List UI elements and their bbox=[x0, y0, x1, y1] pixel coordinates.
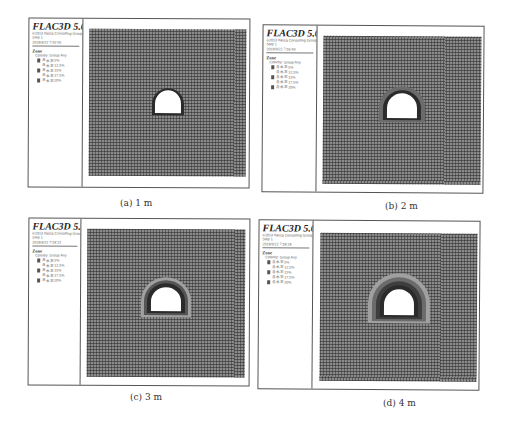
legend-item: 含水率20% bbox=[266, 85, 313, 90]
legend-title: FLAC3D 5.00 bbox=[266, 27, 313, 38]
swatch-icon bbox=[37, 79, 40, 83]
panel-b: FLAC3D 5.00 ©2013 Itasca Consulting Grou… bbox=[261, 24, 484, 194]
legend-divider bbox=[32, 46, 79, 47]
legend-timestamp: 2019/3/22 7:58:22 bbox=[32, 240, 77, 245]
legend-divider bbox=[266, 52, 313, 53]
tunnel-opening bbox=[387, 93, 417, 118]
swatch-icon bbox=[267, 275, 270, 279]
caption-c: (c) 3 m bbox=[130, 392, 162, 402]
legend-a: FLAC3D 5.00 ©2013 Itasca Consulting Grou… bbox=[29, 18, 84, 186]
mesh-plot-a bbox=[89, 29, 247, 177]
swatch-icon bbox=[271, 75, 274, 79]
legend-timestamp: 2019/3/22 7:55:56 bbox=[32, 40, 79, 45]
mesh-plot-c bbox=[87, 229, 246, 378]
swatch-icon bbox=[37, 279, 40, 283]
caption-a: (a) 1 m bbox=[120, 198, 152, 208]
swatch-icon bbox=[37, 59, 40, 63]
panel-c: FLAC3D 5.00 ©2013 Itasca Consulting Grou… bbox=[28, 217, 251, 386]
legend-d: FLAC3D 5.00 ©2013 Itasca Consulting Grou… bbox=[258, 220, 313, 388]
legend-title: FLAC3D 5.00 bbox=[32, 20, 79, 31]
mesh-plot-d bbox=[319, 233, 477, 382]
panel-a: FLAC3D 5.00 ©2013 Itasca Consulting Grou… bbox=[28, 17, 251, 188]
legend-title: FLAC3D 5.00 bbox=[262, 222, 309, 233]
swatch-icon bbox=[267, 265, 270, 269]
swatch-icon bbox=[37, 74, 40, 78]
swatch-icon bbox=[267, 260, 270, 264]
swatch-icon bbox=[271, 70, 274, 74]
swatch-icon bbox=[271, 85, 274, 89]
tunnel-opening bbox=[383, 289, 413, 315]
legend-c: FLAC3D 5.00 ©2013 Itasca Consulting Grou… bbox=[29, 218, 82, 384]
swatch-icon bbox=[267, 280, 270, 284]
legend-title: FLAC3D 5.00 bbox=[32, 220, 77, 231]
tunnel-opening bbox=[151, 287, 181, 311]
swatch-icon bbox=[37, 269, 40, 273]
swatch-icon bbox=[37, 69, 40, 73]
swatch-icon bbox=[271, 80, 274, 84]
swatch-icon bbox=[37, 264, 40, 268]
legend-b: FLAC3D 5.00 ©2013 Itasca Consulting Grou… bbox=[262, 25, 317, 191]
swatch-icon bbox=[267, 270, 270, 274]
caption-b: (b) 2 m bbox=[385, 201, 418, 211]
swatch-icon bbox=[37, 274, 40, 278]
legend-item: 含水率20% bbox=[32, 78, 79, 83]
legend-divider bbox=[262, 247, 309, 248]
legend-item: 含水率20% bbox=[32, 278, 77, 283]
legend-divider bbox=[32, 246, 77, 247]
swatch-icon bbox=[37, 64, 40, 68]
swatch-icon bbox=[37, 259, 40, 263]
legend-item: 含水率20% bbox=[262, 280, 309, 285]
caption-d: (d) 4 m bbox=[383, 398, 416, 408]
swatch-icon bbox=[271, 65, 274, 69]
panel-d: FLAC3D 5.00 ©2013 Itasca Consulting Grou… bbox=[257, 219, 480, 391]
legend-timestamp: 2019/3/22 7:59:28 bbox=[262, 242, 309, 247]
legend-timestamp: 2019/3/22 7:56:43 bbox=[266, 47, 313, 52]
mesh-plot-b bbox=[322, 36, 481, 185]
tunnel-opening bbox=[154, 90, 180, 113]
